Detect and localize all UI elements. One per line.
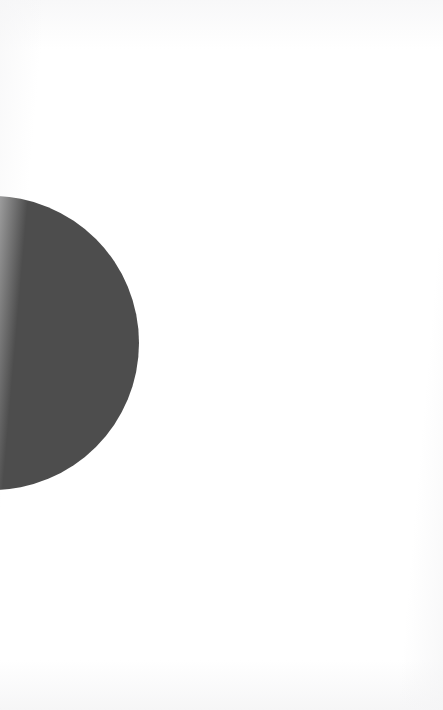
page-canvas — [0, 0, 443, 710]
circle-shape — [0, 196, 139, 490]
dark-circle-figure — [0, 0, 443, 710]
content-layer — [0, 0, 443, 710]
